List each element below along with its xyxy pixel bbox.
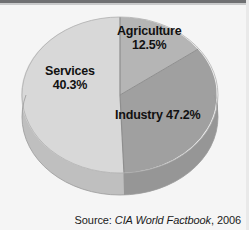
source-year: , 2006 <box>211 214 241 226</box>
pie-chart-figure: Agriculture 12.5% Services 40.3% Industr… <box>0 0 249 230</box>
slice-label-industry: Industry 47.2% <box>115 108 200 122</box>
slice-label-industry-text: Industry 47.2% <box>115 108 200 122</box>
slice-label-agriculture-percent: 12.5% <box>117 38 181 52</box>
source-prefix: Source: <box>75 214 112 226</box>
slice-label-agriculture-name: Agriculture <box>117 24 181 38</box>
source-title: CIA World Factbook <box>115 214 211 226</box>
slice-label-agriculture: Agriculture 12.5% <box>117 24 181 52</box>
slice-label-services-name: Services <box>45 64 95 78</box>
chart-plot-area: Agriculture 12.5% Services 40.3% Industr… <box>0 5 249 203</box>
source-caption: Source: CIA World Factbook, 2006 <box>0 214 241 226</box>
slice-label-services-percent: 40.3% <box>45 78 95 92</box>
slice-label-services: Services 40.3% <box>45 64 95 92</box>
